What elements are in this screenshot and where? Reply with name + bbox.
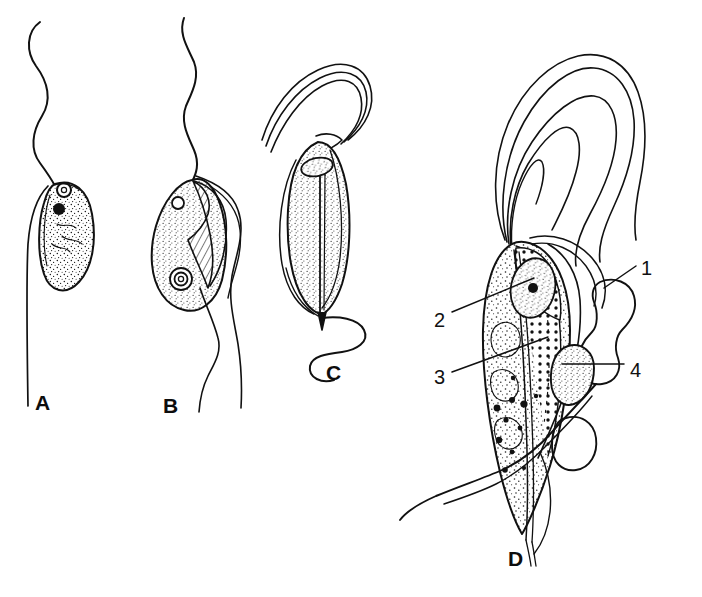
- callout-label-2: 2: [434, 310, 445, 330]
- panel-label-c: C: [326, 362, 341, 383]
- panel-d-nucleus-endosome: [528, 283, 538, 293]
- panel-label-a: A: [35, 392, 50, 413]
- panel-label-b: B: [163, 395, 178, 416]
- panel-b-cell-body: [152, 179, 227, 311]
- panel-b-anterior-flagellum: [182, 18, 197, 182]
- panel-d-lobed-vesicle-2: [551, 345, 594, 405]
- panel-a-anterior-flagellum: [29, 22, 55, 186]
- panel-a-cell-body: [39, 182, 94, 290]
- panel-b-organism: [152, 18, 242, 412]
- panel-c-anterior-flagellum-3: [271, 80, 362, 152]
- panel-b-nucleus-inner: [178, 276, 183, 281]
- illustration-canvas: [0, 0, 702, 597]
- panel-a-nucleus: [53, 203, 65, 215]
- panel-c-axostyle-tip: [318, 312, 326, 330]
- figure-plate: A B C D 1 2 3 4: [0, 0, 702, 597]
- panel-c-organism: [262, 64, 372, 381]
- panel-label-d: D: [508, 548, 523, 569]
- panel-d-anterior-flagellum-1: [496, 55, 645, 240]
- callout-label-3: 3: [434, 367, 445, 387]
- leader-line-1: [604, 266, 636, 288]
- callout-label-4: 4: [630, 360, 641, 380]
- panel-b-kinetoplast: [172, 197, 184, 209]
- panel-a-kinetoplast-core: [61, 187, 66, 192]
- callout-label-1: 1: [641, 258, 652, 278]
- panel-a-organism: [27, 22, 94, 406]
